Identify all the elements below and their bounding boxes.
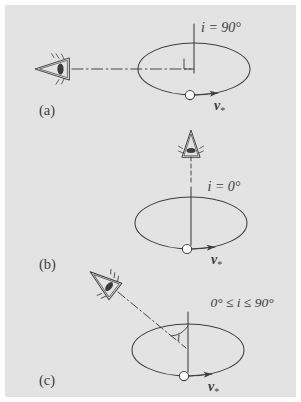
panel-label-c: (c) bbox=[39, 372, 55, 389]
eye-icon bbox=[35, 54, 69, 85]
panel-c bbox=[81, 260, 244, 380]
star-marker bbox=[179, 371, 188, 380]
inclination-label-b: i = 0° bbox=[208, 179, 241, 194]
star-marker bbox=[182, 244, 191, 253]
figure-root: (a) i = 90° v* (b) i = 0° v* (c) 0° ≤ i … bbox=[0, 0, 301, 402]
panel-label-a: (a) bbox=[39, 102, 55, 119]
figure-plate: (a) i = 90° v* (b) i = 0° v* (c) 0° ≤ i … bbox=[5, 5, 296, 397]
panel-label-b: (b) bbox=[39, 256, 56, 273]
angle-arc-label-c: i bbox=[177, 331, 180, 343]
orbital-inclination-diagram: (a) i = 90° v* (b) i = 0° v* (c) 0° ≤ i … bbox=[5, 5, 296, 397]
velocity-label-b: v* bbox=[211, 252, 222, 270]
eye-icon bbox=[178, 130, 203, 157]
velocity-label-a: v* bbox=[214, 98, 225, 116]
inclination-label-c: 0° ≤ i ≤ 90° bbox=[210, 295, 274, 310]
sight-line-c bbox=[118, 292, 186, 348]
inclination-label-a: i = 90° bbox=[201, 20, 241, 35]
velocity-label-c: v* bbox=[208, 379, 219, 397]
panel-a bbox=[35, 24, 250, 100]
star-marker bbox=[185, 90, 194, 99]
right-angle-marker-a bbox=[184, 59, 194, 69]
eye-icon bbox=[81, 260, 124, 302]
